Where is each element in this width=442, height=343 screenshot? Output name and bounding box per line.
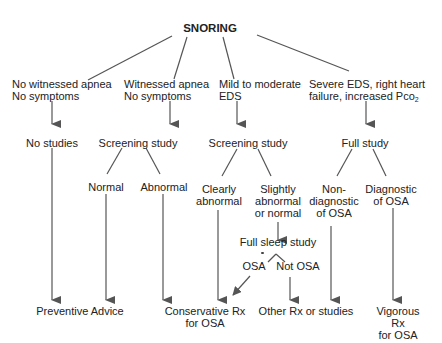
node-line: failure, increased Pco2 xyxy=(309,90,425,102)
node-clearly-abnormal: Clearly abnormal xyxy=(196,183,242,207)
node-diagnostic-of-osa: Diagnostic of OSA xyxy=(365,183,416,207)
asterisk-mark xyxy=(261,252,264,254)
node-line: Witnessed apnea xyxy=(124,78,209,90)
node-osa: OSA xyxy=(242,260,265,272)
node-line: EDS xyxy=(219,90,301,102)
node-mild-moderate-eds: Mild to moderate EDS xyxy=(219,78,301,102)
node-normal: Normal xyxy=(88,181,123,193)
node-line: Severe EDS, right heart xyxy=(309,78,425,90)
node-line: No symptoms xyxy=(124,90,209,102)
node-full-sleep-study: Full sleep study xyxy=(240,236,316,248)
node-screening-study-1: Screening study xyxy=(99,137,178,149)
outcome-vigorous-rx: Vigorous Rx for OSA xyxy=(376,305,420,341)
node-line: Mild to moderate xyxy=(219,78,301,90)
node-no-studies: No studies xyxy=(26,137,78,149)
node-line: No symptoms xyxy=(12,90,112,102)
outcome-other-rx-or-studies: Other Rx or studies xyxy=(259,305,354,317)
node-screening-study-2: Screening study xyxy=(209,137,288,149)
node-full-study: Full study xyxy=(341,137,388,149)
flowchart-connectors xyxy=(0,0,442,343)
node-abnormal: Abnormal xyxy=(140,181,187,193)
outcome-preventive-advice: Preventive Advice xyxy=(36,305,123,317)
node-slightly-abnormal-or-normal: Slightly abnormal or normal xyxy=(255,183,301,219)
node-severe-eds: Severe EDS, right heart failure, increas… xyxy=(309,78,425,102)
outcome-conservative-rx: Conservative Rx for OSA xyxy=(165,305,246,329)
node-line: No witnessed apnea xyxy=(12,78,112,90)
root-node-snoring: SNORING xyxy=(183,22,237,34)
node-not-osa: Not OSA xyxy=(276,260,319,272)
node-no-witnessed-apnea: No witnessed apnea No symptoms xyxy=(12,78,112,102)
node-witnessed-apnea: Witnessed apnea No symptoms xyxy=(124,78,209,102)
node-non-diagnostic-of-osa: Non- diagnostic of OSA xyxy=(309,183,359,219)
